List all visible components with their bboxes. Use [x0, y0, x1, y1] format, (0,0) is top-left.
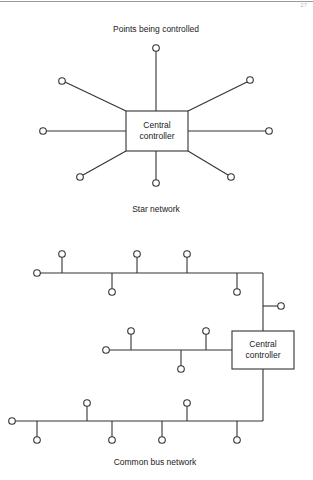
star-heading: Points being controlled — [113, 24, 199, 34]
bus-node — [9, 418, 16, 425]
spoke-upper-left — [65, 82, 126, 111]
star-controller-label-1: Central — [143, 120, 171, 130]
bus-node — [109, 437, 116, 444]
star-node-right — [266, 128, 273, 135]
bus-node — [184, 400, 191, 407]
bus-node — [184, 251, 191, 258]
bus-caption: Common bus network — [114, 457, 197, 467]
bus-node — [159, 437, 166, 444]
bus-controller-label-1: Central — [249, 339, 277, 349]
bus-node — [203, 328, 210, 335]
upper-bus — [34, 251, 285, 331]
star-node-upper-left — [59, 78, 66, 85]
star-network: Points being controlled Central controll… — [40, 24, 273, 214]
bus-network: Central controller Common bus network — [9, 251, 294, 467]
star-node-left — [40, 128, 47, 135]
bus-node — [103, 347, 110, 354]
star-node-lower-right — [228, 174, 235, 181]
bus-node — [278, 303, 285, 310]
bus-node — [109, 289, 116, 296]
lower-bus — [9, 369, 263, 443]
star-node-lower-left — [77, 174, 84, 181]
star-caption: Star network — [132, 204, 180, 214]
bus-node — [178, 366, 185, 373]
spoke-lower-right — [188, 151, 228, 175]
bus-node — [234, 437, 241, 444]
star-central-controller: Central controller — [126, 111, 188, 151]
bus-central-controller: Central controller — [232, 331, 294, 369]
middle-bus — [103, 328, 232, 373]
bus-node — [59, 251, 66, 258]
star-controller-label-2: controller — [140, 131, 175, 141]
spoke-lower-left — [83, 151, 126, 175]
star-node-upper-right — [247, 77, 254, 84]
star-node-top — [153, 45, 160, 52]
bus-node — [84, 400, 91, 407]
bus-node — [34, 270, 41, 277]
bus-node — [128, 328, 135, 335]
star-node-bottom — [153, 180, 160, 187]
bus-node — [134, 251, 141, 258]
spoke-upper-right — [188, 82, 247, 111]
bus-node — [34, 437, 41, 444]
bus-node — [234, 289, 241, 296]
network-diagrams: Points being controlled Central controll… — [0, 0, 313, 480]
bus-controller-label-2: controller — [246, 350, 281, 360]
